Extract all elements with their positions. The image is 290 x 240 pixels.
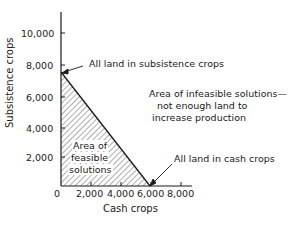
annotation-infeasible-line3: increase production — [152, 112, 246, 123]
x-tick-label: 0 — [54, 188, 60, 199]
x-tick-label: 8,000 — [167, 188, 194, 199]
x-axis-label: Cash crops — [103, 203, 158, 214]
annotation-feasible-line2: feasible — [70, 152, 109, 163]
x-tick-label: 2,000 — [76, 188, 103, 199]
annotation-infeasible-line2: not enough land to — [157, 100, 247, 111]
annotation-infeasible-line1: Area of infeasible solutions— — [149, 88, 287, 99]
y-tick-label: 10,000 — [21, 28, 54, 39]
y-tick-label: 8,000 — [26, 60, 53, 71]
y-tick-label: 4,000 — [26, 123, 53, 134]
y-tick-label: 6,000 — [26, 92, 53, 103]
annotation-feasible-line3: solutions — [68, 164, 113, 175]
y-tick-label: 2,000 — [26, 152, 53, 163]
x-tick-label: 6,000 — [137, 188, 164, 199]
x-tick-label: 4,000 — [107, 188, 134, 199]
y-axis-label: Subsistence crops — [4, 37, 15, 128]
annotation-all-subsistence: All land in subsistence crops — [89, 58, 224, 69]
annotation-feasible-line1: Area of — [72, 140, 108, 151]
annotation-all-cash: All land in cash crops — [174, 153, 275, 164]
